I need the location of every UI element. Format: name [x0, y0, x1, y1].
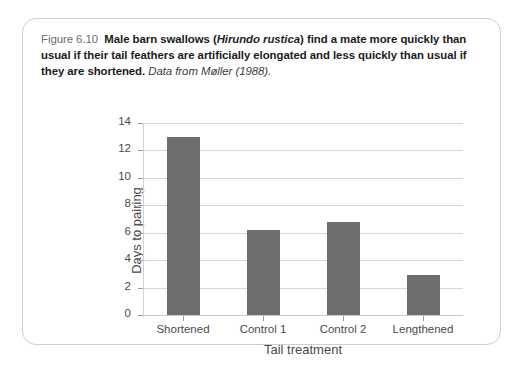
y-axis-tick-label: 6	[91, 225, 131, 237]
plot-area	[143, 123, 463, 315]
caption-text-part1: Male barn swallows (	[104, 33, 216, 45]
caption-source: Data from Møller (1988).	[148, 65, 271, 77]
gridline	[143, 315, 463, 316]
x-axis-tick	[423, 316, 424, 321]
bar-chart: Days to pairing 02468101214 ShortenedCon…	[23, 105, 502, 346]
x-axis-title: Tail treatment	[143, 342, 463, 357]
y-axis-tick-label: 14	[91, 115, 131, 127]
bar	[247, 230, 280, 315]
bar	[167, 137, 200, 315]
y-axis-tick-label: 12	[91, 142, 131, 154]
bar	[327, 222, 360, 315]
figure-page: Figure 6.10 Male barn swallows (Hirundo …	[0, 0, 523, 379]
y-axis-tick-label: 0	[91, 307, 131, 319]
x-axis-tick	[343, 316, 344, 321]
y-axis-tick	[138, 315, 143, 316]
y-axis-tick-label: 10	[91, 170, 131, 182]
figure-number: Figure 6.10	[41, 33, 98, 45]
caption-species-name: Hirundo rustica	[217, 33, 300, 45]
bar	[407, 275, 440, 315]
y-axis-tick-label: 8	[91, 197, 131, 209]
x-axis-tick-label: Lengthened	[373, 323, 473, 335]
figure-card: Figure 6.10 Male barn swallows (Hirundo …	[22, 18, 501, 345]
y-axis-tick-label: 2	[91, 280, 131, 292]
x-axis-tick	[183, 316, 184, 321]
figure-caption: Figure 6.10 Male barn swallows (Hirundo …	[41, 31, 486, 80]
y-axis-tick-label: 4	[91, 252, 131, 264]
x-axis-tick	[263, 316, 264, 321]
